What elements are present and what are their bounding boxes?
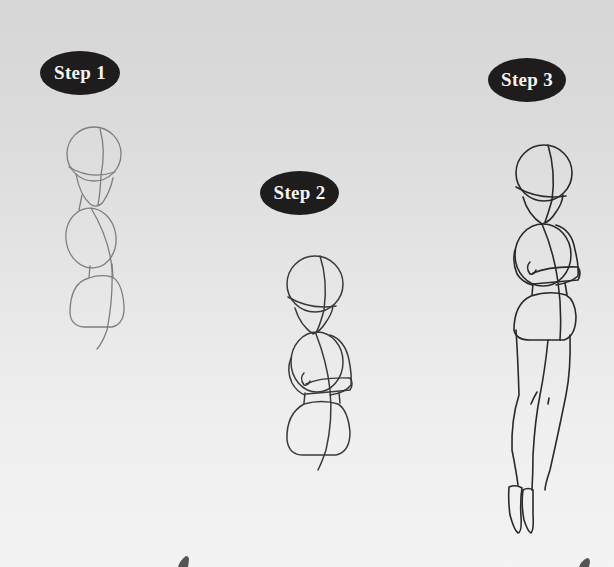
cropped-mark-right bbox=[579, 558, 590, 567]
cropped-mark-left bbox=[178, 556, 189, 567]
bottom-cropped-marks bbox=[0, 0, 614, 567]
drawing-tutorial-canvas: Step 1 Step 2 Step 3 bbox=[0, 0, 614, 567]
